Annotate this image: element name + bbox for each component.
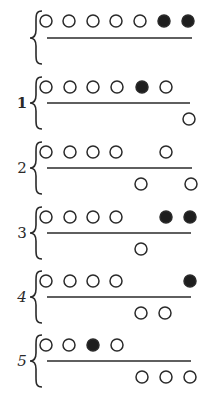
hollow-bead-icon-top: [110, 275, 122, 287]
hollow-bead-icon-top: [87, 211, 99, 223]
group-label: 5: [17, 352, 27, 370]
hollow-bead-icon-bottom: [183, 113, 195, 125]
hollow-bead-icon-top: [160, 81, 172, 93]
bead-group-2: 2: [17, 142, 197, 194]
hollow-bead-icon-bottom: [184, 371, 196, 383]
hollow-bead-icon-top: [64, 211, 76, 223]
group-label: 2: [17, 159, 27, 177]
filled-bead-icon-top: [136, 81, 148, 93]
bead-group-5: 5: [17, 335, 196, 387]
filled-bead-icon-top: [160, 211, 172, 223]
hollow-bead-icon-bottom: [159, 307, 171, 319]
filled-bead-icon-top: [184, 275, 196, 287]
hollow-bead-icon-top: [40, 146, 52, 158]
group-label: 1: [17, 94, 27, 112]
group-label: 3: [17, 224, 27, 242]
bead-group-1: 1: [17, 77, 195, 129]
filled-bead-icon-top: [184, 211, 196, 223]
hollow-bead-icon-top: [40, 211, 52, 223]
hollow-bead-icon-top: [111, 339, 123, 351]
hollow-bead-icon-top: [63, 339, 75, 351]
bead-group-4: 4: [16, 271, 196, 323]
filled-bead-icon-top: [158, 15, 170, 27]
hollow-bead-icon-top: [111, 81, 123, 93]
hollow-bead-icon-top: [87, 15, 99, 27]
hollow-bead-icon-bottom: [135, 178, 147, 190]
bead-group-3: 3: [17, 207, 196, 259]
hollow-bead-icon-bottom: [185, 178, 197, 190]
hollow-bead-icon-top: [63, 15, 75, 27]
hollow-bead-icon-top: [64, 275, 76, 287]
hollow-bead-icon-bottom: [136, 371, 148, 383]
bead-diagram: 12345: [0, 0, 218, 396]
filled-bead-icon-top: [182, 15, 194, 27]
hollow-bead-icon-top: [40, 275, 52, 287]
hollow-bead-icon-top: [87, 146, 99, 158]
hollow-bead-icon-top: [160, 146, 172, 158]
hollow-bead-icon-top: [40, 81, 52, 93]
hollow-bead-icon-bottom: [160, 371, 172, 383]
hollow-bead-icon-top: [64, 146, 76, 158]
hollow-bead-icon-top: [87, 81, 99, 93]
hollow-bead-icon-top: [110, 15, 122, 27]
hollow-bead-icon-top: [134, 15, 146, 27]
filled-bead-icon-top: [87, 339, 99, 351]
hollow-bead-icon-top: [110, 146, 122, 158]
hollow-bead-icon-top: [110, 211, 122, 223]
hollow-bead-icon-bottom: [135, 307, 147, 319]
hollow-bead-icon-top: [87, 275, 99, 287]
group-label: 4: [16, 288, 27, 306]
hollow-bead-icon-top: [64, 81, 76, 93]
bead-group-initial: [30, 11, 194, 64]
hollow-bead-icon-top: [40, 15, 52, 27]
diagram-canvas: 12345: [0, 0, 218, 396]
hollow-bead-icon-top: [40, 339, 52, 351]
hollow-bead-icon-bottom: [135, 243, 147, 255]
